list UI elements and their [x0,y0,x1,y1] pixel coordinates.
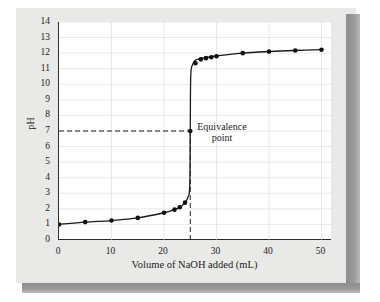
y-tick-label: 10 [34,78,50,88]
y-axis-label: pH [25,117,36,130]
y-tick-label: 6 [34,141,50,151]
plot-area [58,22,331,240]
y-tick-label: 14 [34,16,50,26]
x-tick-label: 20 [153,246,173,256]
y-tick-label: 2 [34,203,50,213]
y-tick-label: 3 [34,187,50,197]
x-tick-label: 30 [206,246,226,256]
equivalence-annotation-line2: point [212,132,233,143]
y-tick-label: 12 [34,47,50,57]
figure-shadow-right [346,14,360,289]
y-tick-label: 1 [34,218,50,228]
x-tick-label: 0 [48,246,68,256]
y-tick-label: 11 [34,63,50,73]
titration-curve-plot [59,22,332,240]
y-tick-label: 0 [34,234,50,244]
titration-curve-figure: 01234567891011121314 01020304050 pH Volu… [0,0,380,302]
x-axis-label: Volume of NaOH added (mL) [58,259,331,270]
x-tick-label: 40 [258,246,278,256]
y-tick-label: 5 [34,156,50,166]
y-tick-label: 7 [34,125,50,135]
y-tick-label: 8 [34,109,50,119]
x-tick-label: 10 [101,246,121,256]
y-tick-label: 9 [34,94,50,104]
y-tick-label: 13 [34,32,50,42]
y-tick-label: 4 [34,172,50,182]
equivalence-annotation-line1: Equivalence [197,121,246,132]
equivalence-point-annotation: Equivalence point [197,121,246,143]
x-tick-label: 50 [311,246,331,256]
figure-shadow-bottom [22,283,360,293]
